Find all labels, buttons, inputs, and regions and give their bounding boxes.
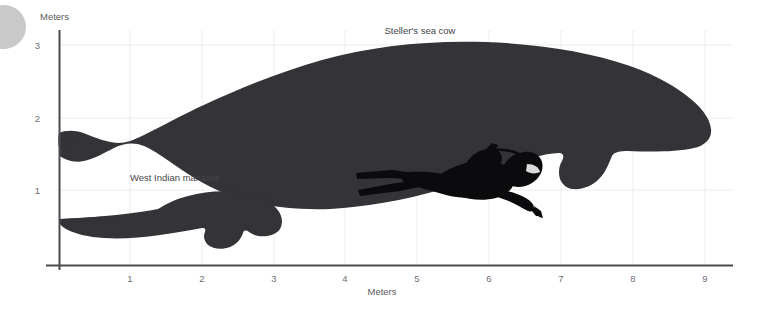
x-tick-label-9: 9 (702, 273, 707, 284)
x-tick-label-8: 8 (630, 273, 635, 284)
x-tick-label-4: 4 (342, 273, 347, 284)
x-tick-label-6: 6 (486, 273, 491, 284)
series-label-stellers-sea-cow: Steller's sea cow (385, 25, 456, 36)
x-tick-label-5: 5 (414, 273, 419, 284)
series-label-west-indian-manatee: West Indian manatee (130, 172, 220, 183)
x-axis-title: Meters (367, 286, 396, 297)
y-axis-title: Meters (40, 11, 69, 22)
size-comparison-chart: 3 2 1 1 2 3 4 5 6 7 8 9 Meters Meters St… (0, 0, 760, 309)
x-tick-label-1: 1 (127, 273, 132, 284)
y-tick-label-3: 3 (35, 40, 40, 51)
y-tick-label-2: 2 (35, 113, 40, 124)
x-tick-label-2: 2 (199, 273, 204, 284)
chart-canvas: 3 2 1 1 2 3 4 5 6 7 8 9 Meters Meters St… (0, 0, 760, 309)
x-tick-label-7: 7 (558, 273, 563, 284)
x-tick-label-3: 3 (271, 273, 276, 284)
y-tick-label-1: 1 (35, 185, 40, 196)
